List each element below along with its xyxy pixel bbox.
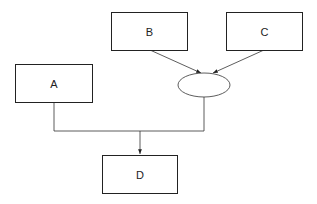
node-c-label: C xyxy=(261,26,269,38)
edge-c-to-junction xyxy=(213,50,264,73)
junction-ellipse xyxy=(178,73,230,97)
node-a: A xyxy=(15,64,93,103)
node-b: B xyxy=(111,12,188,51)
edge-b-to-junction xyxy=(150,50,201,73)
node-a-label: A xyxy=(50,78,57,90)
node-c: C xyxy=(226,12,303,51)
node-d: D xyxy=(102,155,178,194)
node-d-label: D xyxy=(136,169,144,181)
node-b-label: B xyxy=(146,26,153,38)
